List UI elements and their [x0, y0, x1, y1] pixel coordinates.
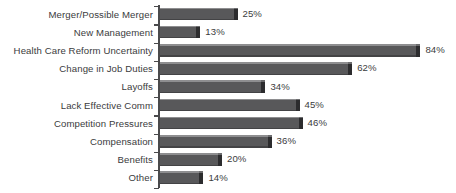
- bar-value-label: 45%: [305, 99, 325, 112]
- bar-end-cap: [299, 117, 303, 130]
- bar-bottom-shade: [160, 37, 200, 38]
- bar-end-cap: [234, 8, 238, 21]
- bar-bottom-shade: [160, 110, 300, 111]
- bar-value-label: 36%: [277, 135, 297, 148]
- bar-row: Change in Job Duties62%: [0, 60, 456, 79]
- bar-bottom-shade: [160, 165, 222, 166]
- axis-tick: [154, 43, 159, 44]
- bar-top-highlight: [160, 171, 203, 173]
- axis-tick: [154, 188, 159, 189]
- axis-tick: [154, 61, 159, 62]
- bar-top-highlight: [160, 62, 352, 64]
- bar-bottom-shade: [160, 19, 238, 20]
- bar-row: New Management13%: [0, 24, 456, 43]
- bar-value-label: 46%: [308, 117, 328, 130]
- bar-end-cap: [268, 135, 272, 148]
- bar-end-cap-highlight: [218, 153, 222, 155]
- bar: [160, 171, 203, 184]
- category-label: Compensation: [0, 133, 153, 152]
- bar: [160, 99, 300, 112]
- bar-top-highlight: [160, 80, 265, 82]
- bar-top-highlight: [160, 117, 303, 119]
- bar-chart: Merger/Possible Merger25%New Management1…: [0, 0, 456, 193]
- bar-top-highlight: [160, 44, 420, 46]
- category-label: Benefits: [0, 151, 153, 170]
- bar-value-label: 13%: [205, 26, 225, 39]
- bar-value-label: 20%: [227, 153, 247, 166]
- bar-bottom-shade: [160, 183, 203, 184]
- category-label: Other: [0, 169, 153, 188]
- bar-bottom-shade: [160, 92, 265, 93]
- axis-tick: [154, 152, 159, 153]
- bar-end-cap-highlight: [261, 80, 265, 82]
- bar-row: Benefits20%: [0, 151, 456, 170]
- bar: [160, 62, 352, 75]
- axis-tick: [154, 97, 159, 98]
- bar-top-highlight: [160, 153, 222, 155]
- plot-area: Merger/Possible Merger25%New Management1…: [0, 0, 456, 193]
- category-label: Layoffs: [0, 78, 153, 97]
- bar: [160, 80, 265, 93]
- bar-end-cap: [296, 99, 300, 112]
- bar-row: Competition Pressures46%: [0, 115, 456, 134]
- bar-bottom-shade: [160, 55, 420, 56]
- category-label: New Management: [0, 24, 153, 43]
- bar: [160, 153, 222, 166]
- bar-value-label: 62%: [357, 62, 377, 75]
- category-label: Lack Effective Comm: [0, 97, 153, 116]
- bar: [160, 8, 238, 21]
- bar-end-cap-highlight: [348, 62, 352, 64]
- bar: [160, 135, 272, 148]
- bar-end-cap-highlight: [199, 171, 203, 173]
- bar-top-highlight: [160, 99, 300, 101]
- bar-row: Health Care Reform Uncertainty84%: [0, 42, 456, 61]
- axis-tick: [154, 79, 159, 80]
- bar-end-cap-highlight: [234, 8, 238, 10]
- bar-row: Lack Effective Comm45%: [0, 97, 456, 116]
- bar-value-label: 84%: [425, 44, 445, 57]
- bar: [160, 26, 200, 39]
- bar-top-highlight: [160, 26, 200, 28]
- bar-end-cap: [348, 62, 352, 75]
- bar: [160, 117, 303, 130]
- axis-tick: [154, 24, 159, 25]
- bar-bottom-shade: [160, 74, 352, 75]
- axis-tick: [154, 115, 159, 116]
- bar-end-cap: [416, 44, 420, 57]
- bar-top-highlight: [160, 8, 238, 10]
- axis-tick: [154, 170, 159, 171]
- axis-tick: [154, 6, 159, 7]
- bar-end-cap-highlight: [268, 135, 272, 137]
- category-label: Merger/Possible Merger: [0, 6, 153, 25]
- bar-end-cap: [196, 26, 200, 39]
- bar-end-cap-highlight: [299, 117, 303, 119]
- bar-row: Layoffs34%: [0, 78, 456, 97]
- bar-end-cap: [218, 153, 222, 166]
- bar-bottom-shade: [160, 128, 303, 129]
- category-label: Competition Pressures: [0, 115, 153, 134]
- bar-top-highlight: [160, 135, 272, 137]
- category-label: Health Care Reform Uncertainty: [0, 42, 153, 61]
- bar-row: Other14%: [0, 169, 456, 188]
- bar-value-label: 25%: [243, 8, 263, 21]
- bar-row: Merger/Possible Merger25%: [0, 6, 456, 25]
- bar-value-label: 14%: [208, 172, 228, 185]
- bar-end-cap: [261, 80, 265, 93]
- category-label: Change in Job Duties: [0, 60, 153, 79]
- bar-row: Compensation36%: [0, 133, 456, 152]
- bar: [160, 44, 420, 57]
- bar-end-cap: [199, 171, 203, 184]
- bar-end-cap-highlight: [196, 26, 200, 28]
- axis-tick: [154, 134, 159, 135]
- bar-end-cap-highlight: [416, 44, 420, 46]
- bar-end-cap-highlight: [296, 99, 300, 101]
- bar-value-label: 34%: [270, 81, 290, 94]
- bar-bottom-shade: [160, 146, 272, 147]
